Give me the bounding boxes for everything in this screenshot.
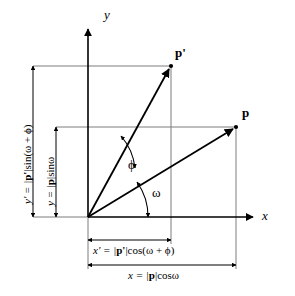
dimension-label-x-suffix: |cosω xyxy=(155,269,179,281)
dimension-label-y: y = |p|sinω xyxy=(45,157,56,206)
point-label-p: p xyxy=(242,106,249,119)
point-dot-p xyxy=(234,125,238,129)
dimension-label-y-prime-suffix: |sin(ω + ϕ) xyxy=(21,125,33,172)
dimension-label-y-prime-prefix: y' = | xyxy=(21,181,33,204)
angle-label-omega: ω xyxy=(152,186,161,199)
dimension-label-y-prime-vector: p' xyxy=(21,172,33,181)
vector-rotation-figure: y x p' p ϕ ω y' = |p'|sin(ω + ϕ) y = |p|… xyxy=(0,0,295,296)
x-axis-label: x xyxy=(262,209,268,222)
dimension-label-y-suffix: |sinω xyxy=(44,157,56,179)
dimension-label-x: x = |p|cosω xyxy=(128,270,179,281)
dimension-label-x-prime-prefix: x' = | xyxy=(93,244,116,256)
dimension-label-x-prime: x' = |p'|cos(ω + ϕ) xyxy=(93,245,174,256)
dimension-label-x-prefix: x = | xyxy=(128,269,149,281)
dimension-label-y-prime: y' = |p'|sin(ω + ϕ) xyxy=(22,125,33,204)
dimension-label-y-prefix: y = | xyxy=(44,185,56,206)
angle-label-phi: ϕ xyxy=(128,158,135,171)
vector-p xyxy=(88,129,233,217)
y-axis-label: y xyxy=(104,8,110,21)
dimension-label-y-vector: p xyxy=(44,179,56,185)
point-dot-p-prime xyxy=(169,64,173,68)
point-label-p-prime: p' xyxy=(175,46,186,59)
dimension-label-x-prime-suffix: |cos(ω + ϕ) xyxy=(125,244,174,256)
dimension-label-x-prime-vector: p' xyxy=(116,244,125,256)
